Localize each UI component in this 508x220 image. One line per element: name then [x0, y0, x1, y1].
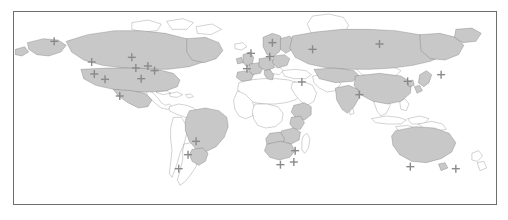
site-marker-southern-africa-west — [276, 161, 284, 169]
site-marker-australia-west — [406, 163, 414, 171]
map-frame — [13, 11, 497, 205]
site-marker-japan — [437, 71, 445, 79]
site-marker-southern-africa-east — [290, 158, 298, 166]
site-marker-australia-east — [452, 165, 460, 173]
world-map-figure — [0, 0, 508, 220]
map-canvas — [14, 12, 496, 204]
